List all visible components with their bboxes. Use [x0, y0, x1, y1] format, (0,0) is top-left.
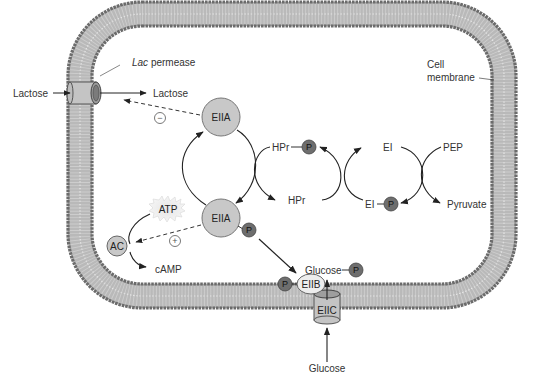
svg-text:P: P — [306, 142, 312, 152]
svg-text:EIIA: EIIA — [212, 112, 231, 123]
activate-sign: + — [170, 236, 181, 247]
pep-to-pyruvate-arrow — [421, 147, 441, 203]
svg-text:EIIC: EIIC — [317, 305, 336, 316]
svg-text:P: P — [353, 265, 359, 275]
lactose-inside-label: Lactose — [153, 88, 188, 99]
pts-diagram: Lac permease Lactose Lactose Cell membra… — [0, 0, 533, 380]
diagram-canvas: Lac permease Lactose Lactose Cell membra… — [0, 0, 533, 380]
svg-text:P: P — [388, 199, 394, 209]
svg-text:+: + — [172, 236, 177, 246]
atp-burst: ATP — [149, 196, 185, 222]
lactose-outside-label: Lactose — [13, 88, 48, 99]
svg-text:EIIA: EIIA — [212, 213, 231, 224]
ei-phosphorylation-arrow — [401, 147, 423, 203]
glucose-phosphate: P — [349, 263, 363, 277]
ac-node: AC — [107, 236, 127, 256]
ei-label: EI — [383, 142, 392, 153]
lac-permease-pointer — [100, 65, 120, 76]
hpr-dephosphorylation-arrow — [254, 147, 275, 200]
cell-membrane-label-2: membrane — [427, 72, 475, 83]
hpr-phosphate: P — [302, 140, 316, 154]
cell-membrane-label-1: Cell — [427, 59, 444, 70]
svg-text:−: − — [157, 113, 162, 123]
eiib-node: EIIB — [297, 274, 325, 294]
eiia-phosphorylation-arrow — [236, 130, 256, 203]
lac-permease — [67, 82, 101, 104]
ei-dephosphorylation-arrow — [344, 148, 363, 200]
hpr-label: HPr — [288, 195, 306, 206]
glucose-outside-label: Glucose — [309, 363, 346, 374]
svg-text:P: P — [246, 225, 252, 235]
eiia-dephosphorylation-arrow — [182, 132, 206, 205]
inhibit-sign: − — [155, 113, 166, 124]
svg-text:EIIB: EIIB — [302, 279, 321, 290]
svg-text:AC: AC — [110, 241, 124, 252]
eiia-phosphate: P — [242, 223, 256, 237]
hpr-phosphorylation-arrow — [320, 147, 341, 200]
svg-text:P: P — [282, 279, 288, 289]
eiia-phospho-node: EIIA — [202, 199, 240, 237]
pyruvate-label: Pyruvate — [447, 199, 487, 210]
eiia-p-activates-ac-arrow — [136, 225, 201, 242]
eiia-to-eiib-arrow — [259, 239, 296, 273]
hpr-phospho-label: HPr — [272, 142, 290, 153]
camp-label: cAMP — [155, 264, 182, 275]
eiia-node: EIIA — [202, 98, 240, 136]
ei-phosphate: P — [384, 197, 398, 211]
ac-to-camp-arrow — [130, 252, 146, 267]
lac-permease-label: Lac permease — [132, 57, 196, 68]
pep-label: PEP — [443, 142, 463, 153]
cell-membrane-pointer — [479, 78, 494, 80]
eiib-phosphate: P — [278, 277, 292, 291]
ei-phospho-label: EI — [365, 199, 374, 210]
svg-text:ATP: ATP — [159, 204, 178, 215]
